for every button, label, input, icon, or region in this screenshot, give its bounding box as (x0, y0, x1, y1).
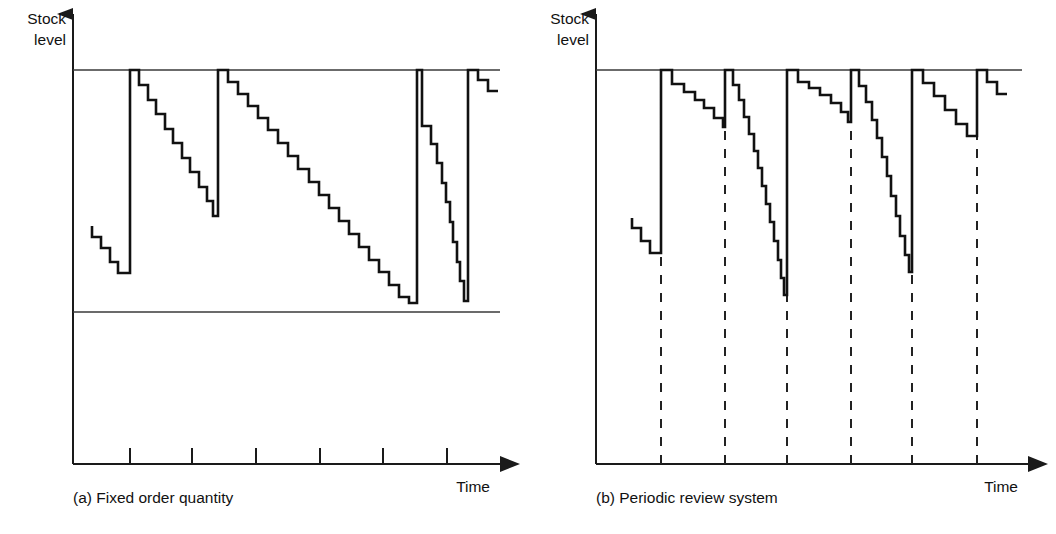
stock-control-figure: Stock level Time (a) Fixed order quantit… (0, 0, 1056, 534)
figure-canvas: Stock level Time (a) Fixed order quantit… (0, 0, 1056, 534)
panel-b-x-axis-label: Time (984, 478, 1018, 495)
panel-a-stock-level-curve (92, 70, 498, 303)
panel-b-y-axis-label-line2: level (557, 31, 589, 48)
panel-b: Stock level Time (b) Periodic review sys… (550, 10, 1028, 506)
panel-a-x-ticks (130, 448, 447, 464)
panel-a-y-axis-label-line2: level (34, 31, 66, 48)
panel-b-stock-level-curve (632, 70, 1007, 295)
panel-a-y-axis-label-line1: Stock (27, 10, 66, 27)
panel-a-x-axis-label: Time (456, 478, 490, 495)
panel-a: Stock level Time (a) Fixed order quantit… (27, 10, 500, 506)
panel-b-caption: (b) Periodic review system (596, 489, 778, 506)
panel-a-caption: (a) Fixed order quantity (73, 489, 233, 506)
panel-b-review-period-lines (661, 70, 977, 464)
panel-b-y-axis-label-line1: Stock (550, 10, 589, 27)
